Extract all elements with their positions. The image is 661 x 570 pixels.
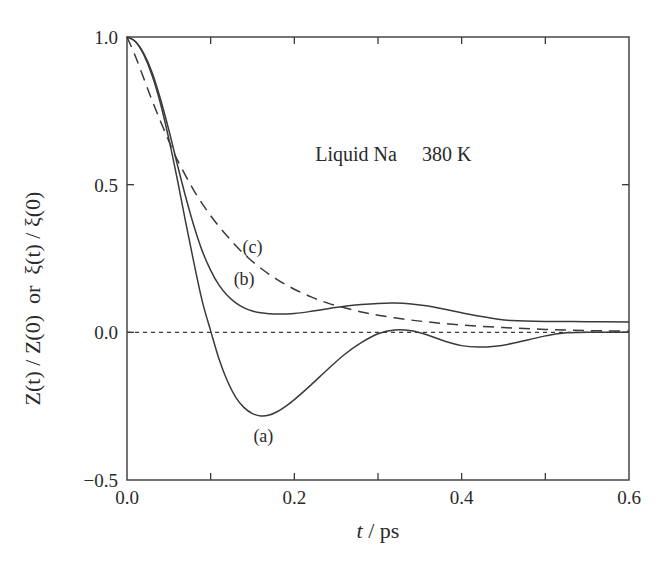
plot-frame <box>127 37 629 480</box>
series-b-line <box>127 37 629 322</box>
series-a-label: (a) <box>253 426 273 447</box>
series-a-line <box>127 37 629 416</box>
x-tick-label: 0.0 <box>115 487 139 508</box>
ticks <box>127 37 629 480</box>
chart: 0.00.20.40.61.00.50.0−0.5 (a)(b)(c) Liqu… <box>0 0 661 570</box>
x-tick-label: 0.2 <box>282 487 306 508</box>
y-tick-label: 1.0 <box>94 27 118 48</box>
series-c-label: (c) <box>243 237 263 258</box>
x-tick-label: 0.4 <box>450 487 474 508</box>
series-c-line <box>127 37 629 331</box>
y-tick-label: 0.5 <box>94 175 118 196</box>
x-axis-label: t / ps <box>357 518 400 543</box>
curves <box>127 37 629 416</box>
y-tick-label: 0.0 <box>94 322 118 343</box>
annotation-liquid-na-380k: Liquid Na 380 K <box>315 143 472 166</box>
y-axis-label: Z(t) / Z(0) or ξ(t) / ξ(0) <box>20 192 45 406</box>
tick-labels: 0.00.20.40.61.00.50.0−0.5 <box>84 27 641 508</box>
plot-border <box>127 37 629 480</box>
x-tick-label: 0.6 <box>617 487 641 508</box>
x-axis-label-unit: / ps <box>363 518 400 543</box>
y-tick-label: −0.5 <box>84 470 118 491</box>
series-b-label: (b) <box>234 269 255 290</box>
